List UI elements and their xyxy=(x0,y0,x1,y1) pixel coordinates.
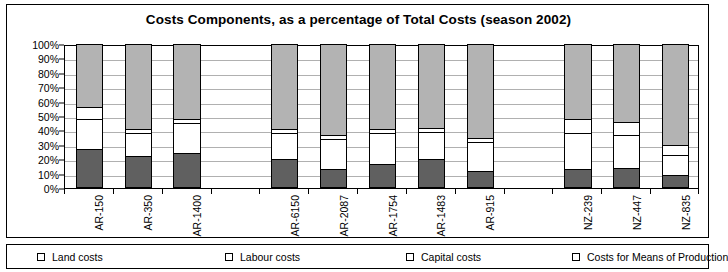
stacked-bar[interactable] xyxy=(125,46,152,188)
y-axis-tick-label: 60% xyxy=(7,97,59,109)
y-axis: 0%10%20%30%40%50%60%70%80%90%100% xyxy=(7,38,59,196)
bar-segment[interactable] xyxy=(271,159,298,188)
legend-label: Land costs xyxy=(52,251,103,263)
bar-segment[interactable] xyxy=(125,156,152,188)
bar-segment[interactable] xyxy=(76,119,103,149)
legend-item[interactable]: Labour costs xyxy=(225,250,300,264)
legend-label: Labour costs xyxy=(240,251,300,263)
x-axis-tick-mark xyxy=(211,189,212,194)
legend-item[interactable]: Land costs xyxy=(37,250,103,264)
bar-segment[interactable] xyxy=(125,44,152,129)
bar-segment[interactable] xyxy=(271,133,298,159)
bar-segment[interactable] xyxy=(613,135,640,168)
bar-segment[interactable] xyxy=(173,119,200,123)
bar-segment[interactable] xyxy=(271,129,298,133)
x-axis-tick-label: NZ-447 xyxy=(631,195,643,230)
bar-segment[interactable] xyxy=(173,153,200,188)
bar-segment[interactable] xyxy=(369,133,396,163)
bar-segment[interactable] xyxy=(369,44,396,129)
legend-swatch-icon xyxy=(225,253,233,261)
bar-segment[interactable] xyxy=(418,159,445,188)
legend-label: Costs for Means of Production xyxy=(587,251,728,263)
legend-item[interactable]: Capital costs xyxy=(406,250,481,264)
x-axis-tick-mark xyxy=(113,189,114,194)
y-axis-tick-label: 80% xyxy=(7,68,59,80)
x-axis-tick-label: AR-1483 xyxy=(435,195,447,236)
bar-segment[interactable] xyxy=(564,133,591,169)
stacked-bar[interactable] xyxy=(369,46,396,188)
bar-segment[interactable] xyxy=(320,44,347,135)
bar-segment[interactable] xyxy=(467,44,494,138)
bar-slot xyxy=(407,46,456,188)
bar-segment[interactable] xyxy=(369,164,396,188)
bar-segment[interactable] xyxy=(271,44,298,129)
bar-segment[interactable] xyxy=(369,129,396,133)
stacked-bar[interactable] xyxy=(173,46,200,188)
x-axis-tick-label: AR-915 xyxy=(484,195,496,231)
bar-segment[interactable] xyxy=(662,44,689,145)
chart-title: Costs Components, as a percentage of Tot… xyxy=(7,12,710,27)
bar-segment[interactable] xyxy=(76,44,103,107)
bar-segment[interactable] xyxy=(613,168,640,188)
bar-slot xyxy=(309,46,358,188)
x-axis-tick-mark xyxy=(357,189,358,194)
bar-segment[interactable] xyxy=(613,44,640,122)
stacked-bar[interactable] xyxy=(271,46,298,188)
stacked-bar[interactable] xyxy=(418,46,445,188)
stacked-bar[interactable] xyxy=(662,46,689,188)
bar-segment[interactable] xyxy=(320,139,347,169)
bar-slot xyxy=(260,46,309,188)
bar-segment[interactable] xyxy=(564,44,591,119)
bar-segment[interactable] xyxy=(125,133,152,156)
x-axis-tick-label: AR-6150 xyxy=(289,195,301,236)
y-axis-tick-label: 100% xyxy=(7,39,59,51)
plot-area xyxy=(64,45,699,189)
stacked-bar[interactable] xyxy=(467,46,494,188)
bar-segment[interactable] xyxy=(613,122,640,135)
bar-segment[interactable] xyxy=(76,107,103,119)
legend-item[interactable]: Costs for Means of Production xyxy=(572,250,728,264)
bar-segment[interactable] xyxy=(76,149,103,188)
x-axis-tick-mark xyxy=(308,189,309,194)
stacked-bar[interactable] xyxy=(613,46,640,188)
bar-slot xyxy=(505,46,554,188)
y-axis-tick-label: 30% xyxy=(7,140,59,152)
bar-segment[interactable] xyxy=(418,128,445,132)
legend-swatch-icon xyxy=(572,253,580,261)
bar-segment[interactable] xyxy=(467,142,494,171)
bar-segment[interactable] xyxy=(125,129,152,133)
bar-segment[interactable] xyxy=(662,155,689,175)
bar-segment[interactable] xyxy=(467,171,494,188)
bar-segment[interactable] xyxy=(662,175,689,188)
bar-slot xyxy=(114,46,163,188)
bar-slot xyxy=(651,46,700,188)
stacked-bar[interactable] xyxy=(76,46,103,188)
bar-segment[interactable] xyxy=(467,138,494,142)
bar-segment[interactable] xyxy=(173,44,200,119)
bar-segment[interactable] xyxy=(564,119,591,133)
stacked-bar[interactable] xyxy=(320,46,347,188)
bar-segment[interactable] xyxy=(564,169,591,188)
bar-segment[interactable] xyxy=(418,132,445,159)
legend-swatch-icon xyxy=(406,253,414,261)
x-axis-tick-mark xyxy=(650,189,651,194)
bar-segment[interactable] xyxy=(173,123,200,153)
bar-slot xyxy=(602,46,651,188)
bar-slot xyxy=(456,46,505,188)
x-axis-tick-mark xyxy=(64,189,65,194)
bar-slot xyxy=(358,46,407,188)
y-axis-tick-label: 0% xyxy=(7,183,59,195)
legend-swatch-icon xyxy=(37,253,45,261)
x-axis-tick-label: AR-350 xyxy=(142,195,154,231)
bar-segment[interactable] xyxy=(662,145,689,155)
bar-segment[interactable] xyxy=(320,135,347,139)
x-axis-tick-mark xyxy=(455,189,456,194)
stacked-bar[interactable] xyxy=(564,46,591,188)
x-axis-tick-mark xyxy=(406,189,407,194)
bar-segment[interactable] xyxy=(320,169,347,188)
x-axis-tick-label: NZ-835 xyxy=(680,195,692,230)
bar-segment[interactable] xyxy=(418,44,445,128)
y-axis-tick-label: 70% xyxy=(7,82,59,94)
x-axis-tick-mark xyxy=(162,189,163,194)
y-axis-tick-label: 40% xyxy=(7,125,59,137)
